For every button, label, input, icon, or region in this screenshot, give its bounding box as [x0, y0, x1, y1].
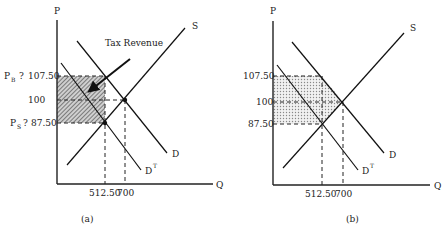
- ps-value: 87.50: [31, 118, 57, 128]
- peq-value: 100: [256, 97, 273, 107]
- ps-sep: ?: [23, 118, 28, 128]
- pb-prefix: P: [4, 71, 10, 81]
- arrow-icon: [92, 59, 130, 89]
- pb-sub: B: [11, 76, 16, 83]
- demand-tax-label: D: [145, 166, 152, 176]
- demand-label: D: [389, 150, 396, 160]
- ps-sub: S: [17, 123, 21, 130]
- ps-value: 87.50: [248, 119, 274, 129]
- y-axis-label: P: [54, 6, 60, 16]
- demand-label: D: [172, 149, 179, 159]
- surplus-loss-area: [273, 76, 343, 124]
- ps-prefix: P: [10, 118, 16, 128]
- pb-value: 107.50: [243, 71, 275, 81]
- demand-tax-sup: T: [153, 162, 157, 169]
- equilibrium-point: [123, 98, 127, 102]
- qeq-label: 700: [335, 189, 352, 199]
- panel-a: P Q Tax Revenue P B ? 107.50 100 P S ? 8…: [4, 6, 223, 224]
- pb-value: 107.50: [28, 71, 60, 81]
- tax-revenue-label: Tax Revenue: [105, 38, 163, 48]
- panel-caption: (a): [81, 214, 93, 224]
- demand-tax-sup: T: [370, 162, 374, 169]
- panel-caption: (b): [346, 214, 359, 224]
- qeq-label: 700: [117, 188, 134, 198]
- supply-label: S: [410, 23, 416, 33]
- x-axis-label: Q: [216, 180, 223, 190]
- qtax-label: 512.50: [89, 188, 121, 198]
- tax-incidence-diagrams: P Q Tax Revenue P B ? 107.50 100 P S ? 8…: [0, 0, 443, 231]
- x-axis-label: Q: [434, 181, 441, 191]
- y-axis-label: P: [270, 6, 276, 16]
- peq-value: 100: [28, 95, 45, 105]
- tax-point: [103, 121, 107, 125]
- demand-tax-label: D: [362, 166, 369, 176]
- qtax-label: 512.50: [305, 189, 337, 199]
- pb-sep: ?: [19, 71, 24, 81]
- panel-b: P Q 107.50 100 87.50 512.50 700 S D D T …: [243, 6, 441, 224]
- supply-label: S: [192, 21, 198, 31]
